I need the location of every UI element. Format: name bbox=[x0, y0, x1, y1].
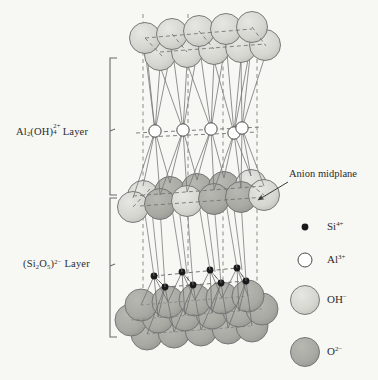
bottom-oxygen-layer bbox=[115, 280, 278, 350]
legend-label-al: Al3+ bbox=[327, 253, 345, 265]
label-anion-midplane: Anion midplane bbox=[289, 168, 357, 179]
label-si-layer: (Si2O5)2− Layer bbox=[23, 258, 90, 270]
legend-marker-oh bbox=[291, 286, 320, 315]
legend-label-oh: OH− bbox=[327, 293, 347, 305]
legend-marker-al bbox=[298, 253, 312, 267]
legend-marker-o bbox=[291, 338, 320, 367]
kaolinite-structure-figure bbox=[0, 0, 378, 380]
legend-label-si: Si4+ bbox=[327, 220, 343, 232]
legend-label-o: O2− bbox=[327, 345, 342, 357]
charge-stack-al: 2+4 bbox=[53, 124, 60, 135]
legend-marker-si bbox=[302, 224, 309, 231]
label-al-layer: Al2(OH)2+4 Layer bbox=[16, 124, 88, 137]
